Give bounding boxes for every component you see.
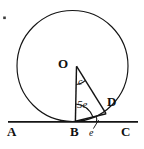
label-point-d: D [107, 95, 116, 108]
chord-BD [75, 114, 106, 121]
label-point-b: B [70, 125, 79, 138]
geometry-figure: O A B C D c 5e e [0, 0, 144, 149]
corner-dot-icon [3, 17, 6, 20]
label-point-a: A [7, 125, 16, 138]
label-angle-e: e [89, 128, 93, 138]
label-angle-5e: 5e [77, 99, 87, 110]
label-point-c: C [121, 125, 130, 138]
angle-arc-at-b-exterior [96, 117, 97, 122]
label-point-o: O [58, 57, 68, 70]
radius-OB [75, 67, 76, 122]
label-angle-c: c [78, 77, 82, 87]
